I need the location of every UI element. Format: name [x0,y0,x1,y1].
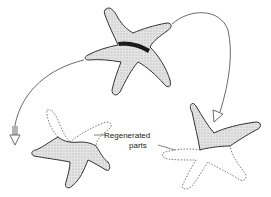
arrow-left [10,60,84,145]
arrow-right-shaft [172,13,230,112]
arrow-left-head-icon [10,135,20,145]
original-starfish [85,8,171,95]
arrow-right-head-icon [213,110,223,122]
arrow-left-shaft [15,60,84,140]
diagram-canvas [0,0,271,197]
original-body-left [32,137,110,188]
original-arms-right [190,104,260,150]
original-starfish-body [85,8,171,95]
arrow-right [172,13,230,122]
regenerated-parts-right [162,146,246,189]
regenerated-starfish-right [162,104,260,189]
regenerated-label-line1: Regenerated [104,131,150,140]
regenerated-label-line2: parts [129,141,147,150]
regenerated-starfish-left [32,110,111,188]
leader-line-lower [158,145,175,150]
